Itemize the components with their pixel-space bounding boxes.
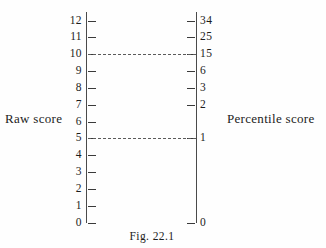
percentile-score-tick [187,37,195,38]
raw-score-axis-line [86,12,87,223]
figure-22-1: 123411251015968372651432100 Raw score Pe… [0,0,326,248]
raw-score-tick [88,88,96,89]
raw-score-label: 0 [76,217,82,229]
raw-score-label: 4 [76,149,82,161]
percentile-score-label: 25 [200,31,212,43]
percentile-score-label: 34 [200,15,212,27]
raw-score-tick [88,37,96,38]
raw-score-tick [88,206,96,207]
raw-score-label: 3 [76,166,82,178]
raw-score-label: 6 [76,116,82,128]
raw-score-tick [88,172,96,173]
connector-dashed-line [88,138,196,139]
raw-score-label: 11 [70,31,82,43]
raw-score-axis-title: Raw score [5,112,62,125]
percentile-score-tick [187,105,195,106]
raw-score-tick [88,21,96,22]
raw-score-tick [88,155,96,156]
connector-dashed-line [88,54,196,55]
raw-score-label: 10 [70,48,82,60]
percentile-score-axis-title: Percentile score [227,112,314,125]
raw-score-label: 5 [76,132,82,144]
percentile-score-tick [187,71,195,72]
raw-score-tick [88,189,96,190]
raw-score-label: 7 [76,99,82,111]
percentile-score-axis-line [196,12,197,223]
raw-score-label: 1 [76,200,82,212]
raw-score-label: 12 [70,15,82,27]
percentile-score-tick [187,223,195,224]
figure-caption: Fig. 22.1 [0,230,304,242]
percentile-score-label: 3 [200,82,206,94]
percentile-score-tick [187,88,195,89]
percentile-score-label: 0 [200,217,206,229]
raw-score-label: 8 [76,82,82,94]
raw-score-label: 2 [76,183,82,195]
percentile-score-label: 15 [200,48,212,60]
raw-score-tick [88,71,96,72]
percentile-score-label: 6 [200,65,206,77]
percentile-score-label: 2 [200,99,206,111]
raw-score-tick [88,223,96,224]
percentile-score-tick [187,21,195,22]
raw-score-tick [88,122,96,123]
percentile-score-label: 1 [200,132,206,144]
raw-score-label: 9 [76,65,82,77]
raw-score-tick [88,105,96,106]
